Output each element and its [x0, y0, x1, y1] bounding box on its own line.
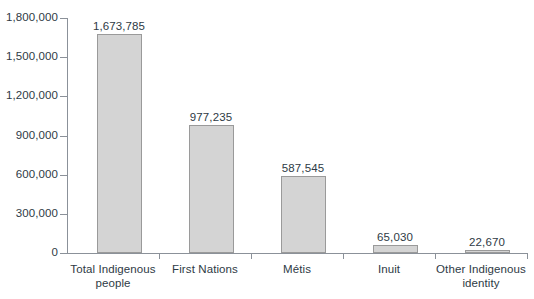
y-axis: 1,800,000 1,500,000 1,200,000 900,000 60… — [0, 0, 58, 299]
bar-value-label: 22,670 — [469, 236, 505, 248]
bar-value-label: 587,545 — [282, 162, 324, 174]
bar-value-label: 977,235 — [190, 111, 232, 123]
category-label-line: Other Indigenous — [421, 262, 534, 276]
category-label-line: identity — [421, 276, 534, 290]
y-axis-tick — [60, 253, 67, 254]
y-axis-tick — [60, 175, 67, 176]
y-axis-label: 900,000 — [0, 130, 58, 141]
bar-other-indigenous-identity[interactable] — [465, 250, 510, 253]
category-label-line: people — [53, 276, 173, 290]
y-axis-tick — [60, 57, 67, 58]
y-axis-label: 1,500,000 — [0, 51, 58, 62]
bar-inuit[interactable] — [373, 245, 418, 253]
x-axis-category-label: First Nations — [150, 262, 260, 276]
x-axis-line — [67, 253, 528, 254]
x-axis-category-label: Métis — [247, 262, 347, 276]
plot-area — [67, 18, 528, 253]
x-axis-category-label: Other Indigenous identity — [421, 262, 534, 290]
y-axis-label: 300,000 — [0, 208, 58, 219]
bar-first-nations[interactable] — [189, 125, 234, 253]
y-axis-label: 1,800,000 — [0, 12, 58, 23]
y-axis-tick — [60, 96, 67, 97]
category-label-line: Métis — [247, 262, 347, 276]
y-axis-tick — [60, 214, 67, 215]
bar-metis[interactable] — [281, 176, 326, 253]
x-axis-tick — [527, 253, 528, 259]
y-axis-label: 1,200,000 — [0, 90, 58, 101]
bar-value-label: 1,673,785 — [93, 20, 145, 32]
y-axis-tick — [60, 18, 67, 19]
x-axis-tick — [435, 253, 436, 259]
bar-total-indigenous-people[interactable] — [97, 34, 142, 253]
bar-chart: 1,800,000 1,500,000 1,200,000 900,000 60… — [0, 0, 534, 299]
y-axis-tick — [60, 136, 67, 137]
x-axis-tick — [251, 253, 252, 259]
y-axis-label: 0 — [0, 247, 58, 258]
x-axis-tick — [159, 253, 160, 259]
y-axis-label: 600,000 — [0, 169, 58, 180]
category-label-line: First Nations — [150, 262, 260, 276]
x-axis-tick — [343, 253, 344, 259]
bar-value-label: 65,030 — [377, 231, 413, 243]
